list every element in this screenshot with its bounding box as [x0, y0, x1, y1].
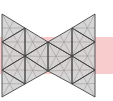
triangle-mesh: [2, 14, 95, 97]
bowtie-diagram: [0, 0, 113, 101]
